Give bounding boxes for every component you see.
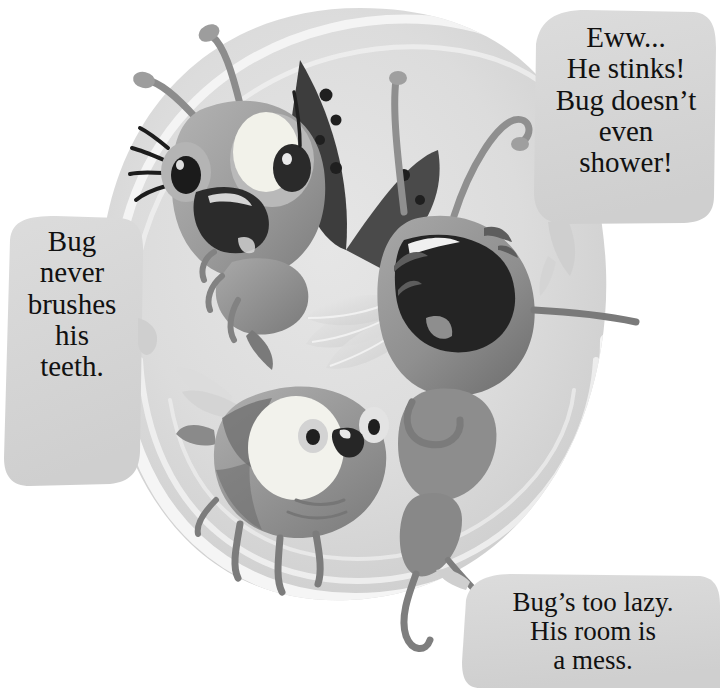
bubble-left-shape bbox=[4, 216, 157, 486]
illustration-canvas bbox=[0, 0, 720, 688]
illustration-page: Bug never brushes his teeth. Eww... He s… bbox=[0, 0, 720, 688]
bubble-topright-shape bbox=[534, 10, 716, 296]
bubble-bottom-shape bbox=[436, 570, 720, 688]
